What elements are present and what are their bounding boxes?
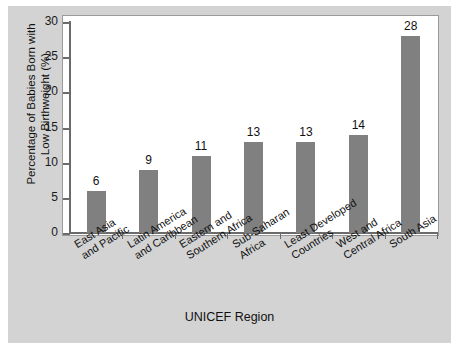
x-axis-tick-mark [280,234,281,239]
bar-value-label: 13 [286,125,326,139]
x-axis-tick-mark [385,234,386,239]
y-axis-title: Percentage of Babies Born with Low Birth… [24,0,52,219]
y-axis-tick-mark [63,163,70,165]
bar-value-label: 6 [76,174,116,188]
y-axis-tick-mark [63,233,70,235]
chart-figure: 051015202530 Percentage of Babies Born w… [0,0,459,359]
x-axis-tick-mark [227,234,228,239]
x-axis-title: UNICEF Region [0,310,459,324]
y-axis-tick-mark [63,22,70,24]
y-axis-tick-mark [63,198,70,200]
y-axis-tick: 0 [0,233,70,234]
y-axis-title-line-1: Percentage of Babies Born with [25,23,37,184]
bar-value-label: 9 [129,153,169,167]
y-axis-tick-label: 5 [51,190,58,205]
bar-value-label: 13 [234,125,274,139]
y-axis-tick-mark [63,128,70,130]
bar-value-label: 11 [181,139,221,153]
y-axis-title-line-2: Low Birthweight (%) [39,53,51,155]
x-axis-tick-mark [175,234,176,239]
y-axis-tick-label: 0 [51,225,58,240]
plot-area: 691113131428 [70,22,437,233]
x-axis-tick-mark [122,234,123,239]
bar[interactable] [401,36,420,233]
bar-value-label: 28 [391,19,431,33]
x-axis-tick-mark [437,234,438,239]
bar-value-label: 14 [338,118,378,132]
x-axis-tick-mark [332,234,333,239]
y-axis-tick-mark [63,92,70,94]
y-axis-tick-mark [63,57,70,59]
